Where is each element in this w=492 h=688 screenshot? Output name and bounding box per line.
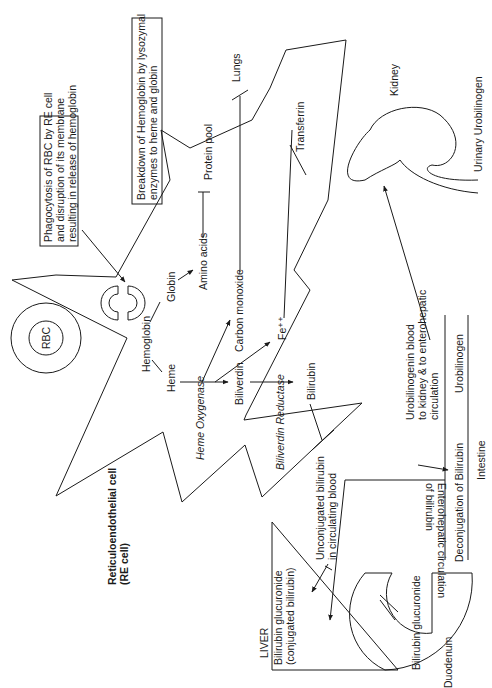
bilirubin-metabolism-diagram: RBC Phagocytosis of RBC by RE cell and d… (0, 0, 492, 688)
svg-text:Enterohepatic circulation: Enterohepatic circulation (436, 483, 448, 598)
re-cell-label: Reticuloendothelial cell (RE cell) (106, 468, 130, 585)
svg-text:resulting in release of hemogl: resulting in release of hemoglobin (66, 85, 78, 242)
svg-text:Unconjugated bilirubin: Unconjugated bilirubin (314, 456, 326, 560)
svg-text:Reticuloendothelial cell: Reticuloendothelial cell (106, 468, 118, 585)
duodenum-label: Duodenum (442, 636, 454, 688)
svg-text:Urobilinogenin blood: Urobilinogenin blood (404, 324, 416, 420)
urobilinogen-blood-label: Urobilinogenin blood to kidney & to ente… (404, 290, 440, 420)
svg-text:(RE cell): (RE cell) (118, 543, 130, 585)
bilirubin-glucuronide-duodenum-label: Bilirubin glucuronide (410, 575, 422, 670)
svg-text:Bilirubin glucuronide: Bilirubin glucuronide (272, 570, 284, 665)
breakdown-box: Breakdown of Hemoglobin by lysozymal enz… (132, 14, 162, 204)
globin-label: Globin (165, 271, 177, 302)
svg-text:in circulating blood: in circulating blood (326, 473, 338, 560)
enterohepatic-label: Enterohepatic circulation of bilirubin (424, 483, 448, 598)
intestine-label: Intestine (475, 440, 487, 480)
fe-label: Fe⁺⁺ (276, 316, 288, 340)
kidney-label: Kidney (388, 63, 400, 96)
svg-text:(conjugated bilirubin): (conjugated bilirubin) (284, 568, 296, 665)
phagocytosis-box: Phagocytosis of RBC by RE cell and disru… (40, 85, 78, 246)
urobilinogen-label: Urobilinogen (453, 334, 465, 393)
kidney-outline (348, 107, 478, 193)
biliverdin-reductase-label: Biliverdin Reductase (274, 374, 286, 470)
transferrin-label: Transferrin (294, 101, 306, 152)
urinary-urobilinogen-label: Urinary Urobilinogen (472, 76, 484, 172)
protein-pool-label: Protein pool (202, 124, 214, 180)
amino-acids-label: Amino acids (197, 233, 209, 290)
heme-oxygenase-label: Heme Oxygenase (194, 376, 206, 460)
bilirubin-label: Bilirubin (305, 362, 317, 400)
phagocytosis-shape (101, 286, 145, 320)
svg-text:circulation: circulation (428, 373, 440, 420)
svg-text:enzymes to heme and globin: enzymes to heme and globin (147, 66, 159, 200)
carbon-monoxide-label: Carbon monoxide (233, 269, 245, 352)
rbc-label: RBC (40, 326, 52, 349)
svg-text:of bilirubin: of bilirubin (424, 483, 436, 531)
liver-label: LIVER (258, 627, 270, 658)
deconjugation-label: Deconjugation of Bilirubin (453, 443, 465, 562)
svg-text:Breakdown of Hemoglobin by lys: Breakdown of Hemoglobin by lysozymal (135, 14, 147, 200)
liver-glucuronide-label: Bilirubin glucuronide (conjugated biliru… (272, 568, 296, 665)
svg-text:to kidney & to enterohepatic: to kidney & to enterohepatic (416, 290, 428, 420)
unconjugated-bilirubin-label: Unconjugated bilirubin in circulating bl… (314, 456, 338, 560)
heme-label: Heme (165, 364, 177, 392)
biliverdin-label: Biliverdin (233, 362, 245, 405)
svg-text:and disruption of its membrane: and disruption of its membrane (54, 98, 66, 242)
rbc-cell: RBC (11, 303, 81, 373)
svg-text:Phagocytosis of RBC by RE cell: Phagocytosis of RBC by RE cell (42, 93, 54, 242)
lungs-label: Lungs (230, 53, 242, 82)
hemoglobin-label: Hemoglobin (140, 316, 152, 372)
